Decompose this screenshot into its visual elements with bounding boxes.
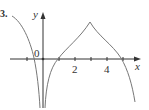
y-axis-arrow-icon	[41, 12, 46, 19]
curve-left-branch	[12, 16, 40, 108]
tick-label-2: 2	[72, 64, 78, 75]
y-axis-label: y	[33, 9, 38, 20]
curve-right-branch	[45, 22, 135, 108]
origin-label: 0	[34, 48, 40, 59]
figure-label: 3.	[0, 9, 8, 19]
origin-dot	[42, 58, 45, 61]
tick-label-4: 4	[104, 64, 110, 75]
graph	[0, 0, 149, 110]
x-axis-label: x	[135, 61, 140, 72]
